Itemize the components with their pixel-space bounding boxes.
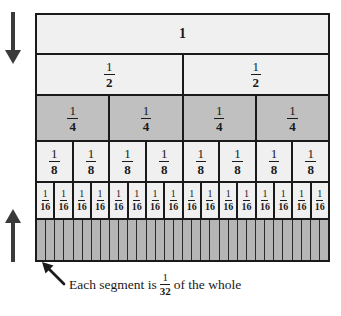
fraction-label-sixteenth: 116 — [95, 189, 105, 212]
fraction-cell-eighth: 18 — [37, 142, 74, 181]
fraction-cell-eighth: 18 — [74, 142, 111, 181]
diagram-canvas: 1 1 2 1 2 14141414 1818181818181818 11 — [0, 0, 341, 316]
bar-row-fourths: 14141414 — [37, 96, 328, 142]
fraction-cell-sixteenth: 116 — [275, 183, 293, 218]
fraction-segment-thirtysecond — [247, 220, 256, 260]
fraction-label-fourth: 14 — [141, 104, 152, 133]
caption-prefix: Each segment is — [66, 277, 160, 293]
fraction-cell-sixteenth: 116 — [110, 183, 128, 218]
fraction-segment-thirtysecond — [220, 220, 229, 260]
fraction-segment-thirtysecond — [183, 220, 192, 260]
fraction-label-half: 1 2 — [251, 60, 262, 89]
fraction-segment-thirtysecond — [110, 220, 119, 260]
caption-fraction-numerator: 1 — [160, 272, 170, 285]
fraction-segment-thirtysecond — [92, 220, 101, 260]
fraction-segment-thirtysecond — [64, 220, 73, 260]
arrow-down-shaft — [11, 12, 15, 52]
fraction-cell-sixteenth: 116 — [220, 183, 238, 218]
caption-suffix: of the whole — [171, 277, 244, 293]
fraction-segment-thirtysecond — [229, 220, 238, 260]
fraction-segment-thirtysecond — [174, 220, 183, 260]
pointer-arrow-icon — [40, 260, 66, 286]
fraction-label-sixteenth: 116 — [278, 189, 288, 212]
fraction-cell-fourth: 14 — [184, 96, 257, 140]
fraction-segment-thirtysecond — [302, 220, 311, 260]
fraction-segment-thirtysecond — [128, 220, 137, 260]
bar-row-whole: 1 — [37, 15, 328, 55]
fraction-label-sixteenth: 116 — [77, 189, 87, 212]
fraction-cell-sixteenth: 116 — [202, 183, 220, 218]
fraction-cell-fourth: 14 — [37, 96, 110, 140]
caption-fraction: 1 32 — [160, 272, 171, 297]
fraction-cell-sixteenth: 116 — [92, 183, 110, 218]
fraction-segment-thirtysecond — [165, 220, 174, 260]
fraction-cell-sixteenth: 116 — [74, 183, 92, 218]
fraction-cell-fourth: 14 — [257, 96, 328, 140]
fraction-label-eighth: 18 — [122, 147, 133, 176]
fraction-label-fourth: 14 — [67, 104, 78, 133]
fraction-segment-thirtysecond — [101, 220, 110, 260]
arrow-down-head — [5, 50, 21, 64]
fraction-segment-thirtysecond — [311, 220, 320, 260]
fraction-cell-eighth: 18 — [184, 142, 221, 181]
fraction-label-eighth: 18 — [196, 147, 207, 176]
bar-row-thirtyseconds — [37, 220, 328, 260]
fraction-segment-thirtysecond — [55, 220, 64, 260]
fraction-cell-whole: 1 — [37, 15, 328, 53]
fraction-segment-thirtysecond — [156, 220, 165, 260]
fraction-segment-thirtysecond — [74, 220, 83, 260]
fraction-label-sixteenth: 116 — [242, 189, 252, 212]
fraction-cell-sixteenth: 116 — [129, 183, 147, 218]
fraction-cell-eighth: 18 — [147, 142, 184, 181]
fraction-label-sixteenth: 116 — [297, 189, 307, 212]
caption-fraction-denominator: 32 — [160, 285, 171, 297]
fraction-segment-thirtysecond — [83, 220, 92, 260]
fraction-cell-sixteenth: 116 — [55, 183, 73, 218]
arrow-up-head — [5, 209, 21, 223]
fraction-label-eighth: 18 — [232, 147, 243, 176]
fraction-label-sixteenth: 116 — [168, 189, 178, 212]
fraction-segment-thirtysecond — [46, 220, 55, 260]
fraction-segment-thirtysecond — [210, 220, 219, 260]
fraction-cell-half: 1 2 — [37, 55, 184, 94]
fraction-cell-eighth: 18 — [220, 142, 257, 181]
fraction-label-sixteenth: 116 — [187, 189, 197, 212]
fraction-segment-thirtysecond — [274, 220, 283, 260]
fraction-cell-sixteenth: 116 — [312, 183, 328, 218]
fraction-segment-thirtysecond — [293, 220, 302, 260]
bar-row-eighths: 1818181818181818 — [37, 142, 328, 183]
fraction-label-eighth: 18 — [86, 147, 97, 176]
fraction-cell-sixteenth: 116 — [257, 183, 275, 218]
fraction-label-sixteenth: 116 — [58, 189, 68, 212]
fraction-label-half: 1 2 — [104, 60, 115, 89]
fraction-cell-sixteenth: 116 — [293, 183, 311, 218]
fraction-segment-thirtysecond — [37, 220, 46, 260]
fraction-label-sixteenth: 116 — [223, 189, 233, 212]
fraction-label-eighth: 18 — [269, 147, 280, 176]
fraction-segment-thirtysecond — [137, 220, 146, 260]
fraction-segment-thirtysecond — [265, 220, 274, 260]
fraction-segment-thirtysecond — [256, 220, 265, 260]
fraction-cell-sixteenth: 116 — [238, 183, 256, 218]
fraction-label-sixteenth: 116 — [40, 189, 50, 212]
fraction-segment-thirtysecond — [283, 220, 292, 260]
fraction-label-sixteenth: 116 — [260, 189, 270, 212]
caption: Each segment is 1 32 of the whole — [66, 272, 244, 297]
whole-label: 1 — [179, 26, 186, 42]
fraction-cell-sixteenth: 116 — [165, 183, 183, 218]
fraction-cell-eighth: 18 — [110, 142, 147, 181]
bar-row-sixteenths: 1161161161161161161161161161161161161161… — [37, 183, 328, 220]
fraction-label-sixteenth: 116 — [315, 189, 325, 212]
fraction-segment-thirtysecond — [192, 220, 201, 260]
fraction-cell-sixteenth: 116 — [184, 183, 202, 218]
fraction-segment-thirtysecond — [320, 220, 328, 260]
fraction-label-eighth: 18 — [49, 147, 60, 176]
fraction-bar-model: 1 1 2 1 2 14141414 1818181818181818 11 — [35, 13, 330, 262]
fraction-segment-thirtysecond — [147, 220, 156, 260]
fraction-label-sixteenth: 116 — [132, 189, 142, 212]
fraction-cell-sixteenth: 116 — [147, 183, 165, 218]
fraction-segment-thirtysecond — [119, 220, 128, 260]
fraction-label-eighth: 18 — [305, 147, 316, 176]
fraction-label-sixteenth: 116 — [150, 189, 160, 212]
bar-row-halves: 1 2 1 2 — [37, 55, 328, 96]
